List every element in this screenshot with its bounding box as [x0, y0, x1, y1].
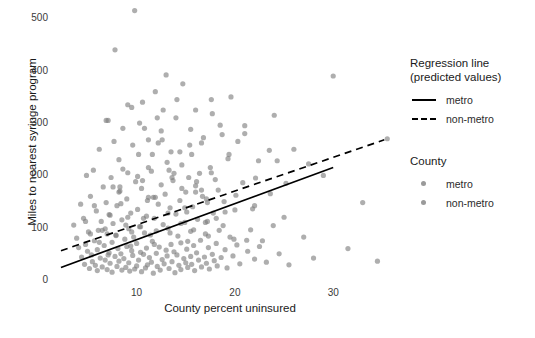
scatter-point: [245, 249, 250, 254]
scatter-point: [250, 206, 255, 211]
scatter-point: [188, 254, 193, 259]
scatter-point: [141, 216, 146, 221]
scatter-point: [161, 222, 166, 227]
scatter-point: [199, 264, 204, 269]
scatter-point: [93, 263, 98, 268]
scatter-point: [213, 177, 218, 182]
scatter-point: [166, 266, 171, 271]
scatter-point: [100, 264, 105, 269]
scatter-point: [145, 198, 150, 203]
scatter-point: [199, 187, 204, 192]
scatter-point: [103, 258, 108, 263]
scatter-point: [106, 252, 111, 257]
scatter-point: [228, 94, 233, 99]
scatter-point: [191, 227, 196, 232]
scatter-point: [191, 243, 196, 248]
scatter-point: [101, 184, 106, 189]
scatter-point: [139, 186, 144, 191]
scatter-point: [99, 219, 104, 224]
scatter-point: [234, 242, 239, 247]
x-axis-label: County percent uninsured: [58, 302, 402, 314]
scatter-point: [116, 157, 121, 162]
scatter-point: [164, 248, 169, 253]
scatter-point: [331, 73, 336, 78]
scatter-point: [112, 47, 117, 52]
scatter-point: [267, 148, 272, 153]
scatter-point: [98, 255, 103, 260]
scatter-point: [109, 270, 114, 275]
scatter-point: [375, 259, 380, 264]
y-tick-label: 500: [8, 13, 48, 23]
scatter-point: [146, 137, 151, 142]
scatter-point: [88, 194, 93, 199]
scatter-point: [82, 262, 87, 267]
scatter-point: [232, 207, 237, 212]
scatter-point: [212, 258, 217, 263]
scatter-point: [83, 219, 88, 224]
scatter-point: [173, 211, 178, 216]
scatter-point: [142, 230, 147, 235]
scatter-point: [71, 222, 76, 227]
scatter-point: [177, 198, 182, 203]
scatter-point: [162, 261, 167, 266]
legend-item-metro-line[interactable]: metro: [410, 90, 532, 109]
scatter-point: [194, 250, 199, 255]
y-tick-label: 300: [8, 118, 48, 128]
scatter-point: [157, 244, 162, 249]
scatter-point: [150, 152, 155, 157]
scatter-point: [174, 97, 179, 102]
scatter-point: [123, 265, 128, 270]
solid-line-icon: [410, 90, 440, 109]
scatter-point: [194, 179, 199, 184]
scatter-point: [140, 178, 145, 183]
scatter-point: [116, 259, 121, 264]
scatter-point: [94, 208, 99, 213]
scatter-point: [92, 203, 97, 208]
scatter-point: [272, 113, 277, 118]
x-tick-label: 30: [313, 288, 353, 298]
scatter-point: [178, 240, 183, 245]
scatter-point: [230, 253, 235, 258]
scatter-point: [186, 175, 191, 180]
scatter-point: [132, 8, 137, 13]
scatter-point: [233, 193, 238, 198]
scatter-point: [172, 270, 177, 275]
scatter-point: [179, 186, 184, 191]
scatter-point: [240, 180, 245, 185]
scatter-point: [227, 235, 232, 240]
legend-title-regression-line1: Regression line: [410, 56, 532, 70]
scatter-point: [193, 107, 198, 112]
legend-item-nonmetro-line[interactable]: non-metro: [410, 109, 532, 128]
legend-item-nonmetro-point[interactable]: non-metro: [410, 193, 532, 212]
scatter-point: [169, 259, 174, 264]
scatter-point: [275, 158, 280, 163]
scatter-point: [120, 126, 125, 131]
scatter-point: [242, 123, 247, 128]
scatter-point: [87, 266, 92, 271]
legend: Regression line (predicted values) metro…: [410, 56, 532, 212]
scatter-point: [149, 260, 154, 265]
scatter-point: [168, 149, 173, 154]
scatter-point: [214, 241, 219, 246]
scatter-point: [179, 162, 184, 167]
scatter-point: [127, 269, 132, 274]
scatter-point: [206, 233, 211, 238]
scatter-point: [221, 223, 226, 228]
scatter-point: [311, 255, 316, 260]
legend-item-metro-point[interactable]: metro: [410, 174, 532, 193]
scatter-point: [108, 175, 113, 180]
scatter-point: [177, 149, 182, 154]
scatter-point: [286, 262, 291, 267]
scatter-point: [252, 256, 257, 261]
scatter-point: [277, 251, 282, 256]
scatter-point: [111, 139, 116, 144]
scatter-point: [114, 264, 119, 269]
scatter-point: [130, 142, 135, 147]
scatter-point: [134, 263, 139, 268]
scatter-point: [124, 196, 129, 201]
scatter-point: [129, 229, 134, 234]
legend-label-metro-point: metro: [440, 178, 473, 190]
scatter-point: [91, 168, 96, 173]
legend-block-county: County metro non-metro: [410, 154, 532, 212]
scatter-point: [138, 224, 143, 229]
